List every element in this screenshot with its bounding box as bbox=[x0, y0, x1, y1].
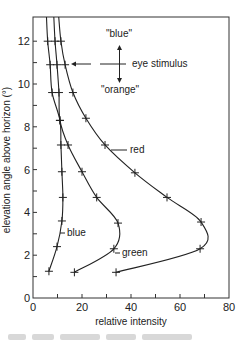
data-point-marker bbox=[82, 114, 90, 122]
curve-label-blue: blue bbox=[67, 227, 86, 238]
data-point-marker bbox=[55, 89, 63, 97]
data-point-marker bbox=[53, 61, 61, 69]
x-tick-60: 60 bbox=[174, 301, 186, 313]
x-tick-0: 0 bbox=[30, 301, 36, 313]
y-tick-8: 8 bbox=[24, 121, 30, 133]
arrow-up-icon bbox=[117, 45, 122, 50]
y-tick-0: 0 bbox=[24, 292, 30, 304]
x-tick-20: 20 bbox=[76, 301, 88, 313]
y-tick-2: 2 bbox=[24, 249, 30, 261]
x-axis bbox=[58, 294, 205, 298]
data-point-marker bbox=[57, 141, 65, 149]
arrow-down-icon bbox=[117, 78, 122, 83]
data-point-marker bbox=[58, 168, 66, 176]
data-point-marker bbox=[48, 89, 56, 97]
data-point-marker bbox=[45, 267, 53, 275]
data-point-marker bbox=[69, 89, 77, 97]
y-tick-4: 4 bbox=[24, 206, 30, 218]
figure-caption-cutoff bbox=[8, 334, 238, 343]
y-tick-6: 6 bbox=[24, 164, 30, 176]
curve-label-green: green bbox=[122, 247, 148, 258]
annotation-blue-quoted: "blue" bbox=[106, 28, 132, 39]
data-point-marker bbox=[58, 217, 66, 225]
data-point-marker bbox=[70, 268, 78, 276]
data-point-marker bbox=[57, 37, 65, 45]
data-point-marker bbox=[114, 219, 122, 227]
data-point-marker bbox=[61, 61, 69, 69]
curve-label-red: red bbox=[130, 144, 144, 155]
data-point-marker bbox=[163, 193, 171, 201]
y-tick-12: 12 bbox=[18, 35, 30, 47]
chart: 0 20 40 60 80 relative intensity 0 2 4 6… bbox=[0, 0, 244, 343]
data-point-marker bbox=[53, 243, 61, 251]
y-axis bbox=[33, 41, 37, 276]
data-point-marker bbox=[78, 168, 86, 176]
eye-stimulus-annotation bbox=[71, 45, 126, 83]
data-point-marker bbox=[44, 37, 52, 45]
x-tick-80: 80 bbox=[223, 301, 235, 313]
x-tick-40: 40 bbox=[125, 301, 137, 313]
data-point-marker bbox=[64, 141, 72, 149]
data-point-marker bbox=[196, 245, 204, 253]
y-axis-label: elevation angle above horizon (°) bbox=[1, 87, 12, 233]
annotation-orange-quoted: "orange" bbox=[101, 84, 140, 95]
arrow-left-icon bbox=[71, 62, 76, 67]
data-point-marker bbox=[46, 61, 54, 69]
y-tick-10: 10 bbox=[18, 78, 30, 90]
data-point-marker bbox=[56, 116, 64, 124]
data-point-marker bbox=[112, 268, 120, 276]
data-point-marker bbox=[59, 193, 67, 201]
annotation-eye-stimulus: eye stimulus bbox=[132, 58, 188, 69]
x-axis-label: relative intensity bbox=[95, 316, 167, 327]
